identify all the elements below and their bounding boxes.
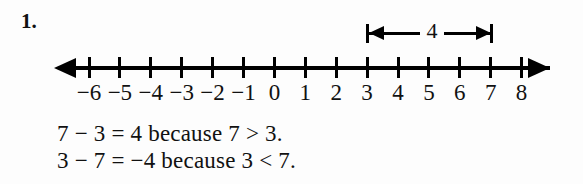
axis-tick bbox=[366, 57, 369, 78]
dimension-label: 4 bbox=[420, 20, 444, 42]
explanation-line-1: 7 − 3 = 4 because 7 > 3. bbox=[57, 120, 557, 147]
dimension-right-arrowhead-icon bbox=[476, 26, 491, 40]
axis-tick bbox=[458, 57, 461, 78]
axis-tick bbox=[118, 57, 121, 78]
dimension-left-arrowhead-icon bbox=[369, 26, 384, 40]
axis-tick-label: 4 bbox=[392, 81, 404, 104]
axis-tick-label: −5 bbox=[108, 81, 132, 104]
explanation-block: 7 − 3 = 4 because 7 > 3. 3 − 7 = −4 beca… bbox=[57, 120, 557, 174]
exercise-page: 1. 4 −6−5−4−3−2−1012345678 7 − 3 = 4 bec… bbox=[0, 0, 583, 184]
axis-tick bbox=[149, 57, 152, 78]
axis-tick bbox=[88, 57, 91, 78]
axis-tick bbox=[335, 57, 338, 78]
axis-tick bbox=[242, 57, 245, 78]
axis-tick-label: −3 bbox=[169, 81, 193, 104]
axis-tick-label: 5 bbox=[423, 81, 435, 104]
axis-tick-label: −6 bbox=[77, 81, 101, 104]
axis-tick-label: −4 bbox=[139, 81, 163, 104]
axis-tick bbox=[489, 57, 492, 78]
axis-tick-label: 0 bbox=[269, 81, 281, 104]
number-line-figure: 4 −6−5−4−3−2−1012345678 bbox=[0, 0, 583, 115]
axis-tick-label: 1 bbox=[300, 81, 312, 104]
axis-tick bbox=[180, 57, 183, 78]
axis-tick bbox=[397, 57, 400, 78]
axis-tick bbox=[520, 57, 523, 78]
explanation-line-2: 3 − 7 = −4 because 3 < 7. bbox=[57, 147, 557, 174]
axis-tick bbox=[273, 57, 276, 78]
axis-tick-label: 6 bbox=[454, 81, 466, 104]
axis-tick-label: 8 bbox=[516, 81, 528, 104]
axis-right-arrowhead-icon bbox=[528, 58, 550, 78]
axis-tick bbox=[304, 57, 307, 78]
axis-tick bbox=[427, 57, 430, 78]
axis-line bbox=[70, 66, 550, 70]
axis-tick-label: 2 bbox=[330, 81, 342, 104]
axis-tick-label: −1 bbox=[231, 81, 255, 104]
axis-tick-label: 3 bbox=[361, 81, 373, 104]
axis-tick-label: 7 bbox=[485, 81, 497, 104]
axis-tick-label: −2 bbox=[200, 81, 224, 104]
axis-tick bbox=[211, 57, 214, 78]
